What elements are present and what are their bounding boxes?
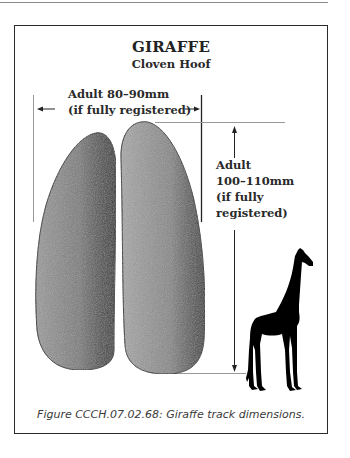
down-arrow-icon <box>232 230 237 372</box>
figure-caption: Figure CCCH.07.02.68: Giraffe track dime… <box>14 408 328 421</box>
giraffe-silhouette-icon <box>246 248 313 391</box>
right-arrow-icon <box>185 107 200 112</box>
hoof-print-left <box>36 133 116 370</box>
hoof-print-right <box>121 122 205 374</box>
up-arrow-icon <box>232 126 237 158</box>
left-arrow-icon <box>37 107 55 112</box>
track-illustration <box>0 0 350 458</box>
